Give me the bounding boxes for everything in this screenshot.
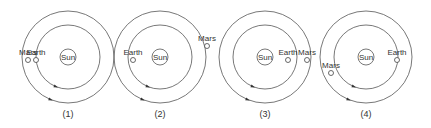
earth-orbit-direction-arrow-icon	[351, 84, 356, 87]
mars-orbit-direction-arrow-icon	[48, 97, 53, 100]
diagram-2: SunEarthMars(2)	[114, 11, 216, 119]
mars-label: Mars	[298, 48, 316, 57]
earth-label: Earth	[123, 48, 142, 57]
earth-icon	[131, 58, 136, 63]
earth-orbit-direction-arrow-icon	[53, 84, 58, 87]
mars-icon	[329, 71, 334, 76]
diagram-4: SunEarthMars(4)	[320, 11, 412, 119]
sun-label: Sun	[258, 53, 272, 62]
sun-label: Sun	[359, 53, 373, 62]
mars-label: Mars	[198, 34, 216, 43]
diagram-caption: (1)	[63, 109, 74, 119]
earth-orbit-direction-arrow-icon	[250, 84, 255, 87]
mars-icon	[305, 58, 310, 63]
diagram-caption: (3)	[260, 109, 271, 119]
mars-label: Mars	[19, 48, 37, 57]
mars-orbit-direction-arrow-icon	[346, 97, 351, 100]
earth-label: Earth	[387, 48, 406, 57]
mars-label: Mars	[322, 61, 340, 70]
diagram-caption: (2)	[155, 109, 166, 119]
diagram-caption: (4)	[361, 109, 372, 119]
mars-icon	[26, 58, 31, 63]
mars-orbit-direction-arrow-icon	[245, 97, 250, 100]
earth-icon	[286, 58, 291, 63]
diagram-1: SunEarthMars(1)	[19, 11, 114, 119]
earth-label: Earth	[278, 48, 297, 57]
mars-icon	[205, 44, 210, 49]
earth-icon	[34, 58, 39, 63]
diagram-3: SunEarthMars(3)	[219, 11, 316, 119]
earth-icon	[395, 58, 400, 63]
sun-label: Sun	[153, 53, 167, 62]
earth-mars-orbit-diagrams: SunEarthMars(1) SunEarthMars(2) SunEarth…	[0, 0, 431, 128]
mars-orbit-direction-arrow-icon	[140, 97, 145, 100]
earth-orbit-direction-arrow-icon	[145, 84, 150, 87]
sun-label: Sun	[61, 53, 75, 62]
